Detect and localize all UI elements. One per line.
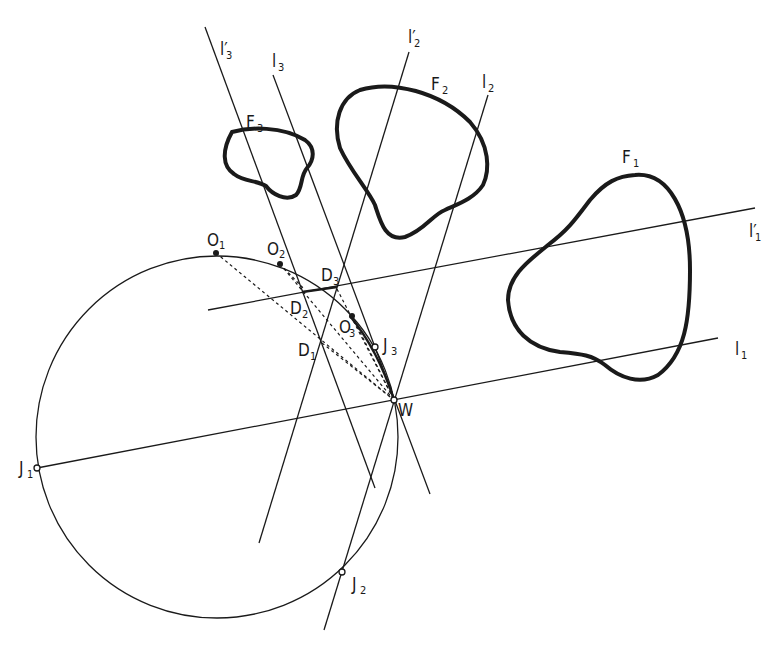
svg-text:3: 3 [391,345,397,358]
line-l2 [324,95,488,630]
svg-text:2: 2 [302,308,308,321]
label-j3: J3 [382,335,397,358]
svg-text:l: l [735,339,739,359]
point-j3 [372,344,378,350]
svg-text:D: D [321,265,333,285]
svg-text:3: 3 [257,122,263,135]
svg-text:D: D [290,298,302,318]
label-f2: F2 [431,74,448,97]
svg-text:1: 1 [27,468,33,481]
svg-text:J: J [382,335,388,355]
label-f1: F1 [622,147,639,170]
svg-text:3: 3 [226,49,232,62]
svg-text:1: 1 [633,157,639,170]
svg-text:1: 1 [755,231,761,244]
svg-text:F: F [431,74,440,94]
point-o2 [277,261,283,267]
svg-text:J: J [351,574,357,594]
point-j1 [34,465,40,471]
svg-text:l: l [272,51,276,71]
svg-text:2: 2 [414,37,420,50]
label-l2: l2 [482,72,494,95]
point-w [391,397,397,403]
svg-text:3: 3 [349,327,355,340]
svg-text:1: 1 [310,350,316,363]
point-j2 [339,569,345,575]
svg-text:O: O [207,230,219,250]
figure-f3 [225,129,313,198]
svg-text:1: 1 [741,349,747,362]
svg-text:F: F [622,147,631,167]
label-d1: D1 [298,340,316,363]
line-l2-prime [259,52,409,543]
svg-text:1: 1 [219,239,225,252]
svg-text:D: D [298,340,310,360]
svg-text:l: l [482,72,486,92]
label-f3: F3 [246,112,263,135]
label-o1: O1 [207,230,225,252]
label-w: W [398,400,413,420]
svg-text:J: J [18,458,24,478]
label-l3-prime: l′3 [220,39,232,62]
svg-text:2: 2 [442,84,448,97]
label-l3: l3 [272,51,284,74]
svg-text:3: 3 [333,275,339,288]
label-l1: l1 [735,339,747,362]
geometry-diagram: F1 F2 F3 l1 l′1 l2 l′2 l3 l′3 O1 O2 O3 D… [0,0,776,647]
label-d3: D3 [321,265,339,288]
svg-text:2: 2 [279,248,285,261]
label-l1-prime: l′1 [749,221,761,244]
label-j2: J2 [351,574,366,597]
label-l2-prime: l′2 [408,27,420,50]
svg-text:W: W [398,400,413,420]
svg-text:2: 2 [488,82,494,95]
svg-text:F: F [246,112,255,132]
svg-text:3: 3 [278,61,284,74]
svg-text:2: 2 [360,584,366,597]
label-j1: J1 [18,458,33,481]
svg-text:O: O [267,239,279,259]
label-o2: O2 [267,239,285,261]
